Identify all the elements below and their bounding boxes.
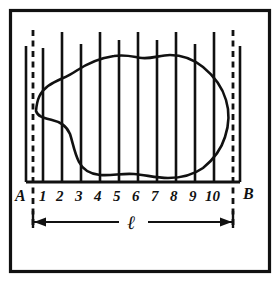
label-point-b: B (242, 185, 254, 202)
figure-labels-layer: A 1 2 3 4 5 6 7 8 9 10 B ℓ (0, 0, 279, 282)
ordinate-label-4: 4 (93, 188, 102, 204)
ordinate-label-1: 1 (39, 188, 47, 204)
ordinate-label-7: 7 (151, 188, 159, 204)
label-point-a: A (14, 187, 26, 204)
ordinate-label-5: 5 (113, 188, 121, 204)
ordinate-label-10: 10 (205, 188, 221, 204)
ordinate-label-9: 9 (189, 188, 197, 204)
figure-container: A 1 2 3 4 5 6 7 8 9 10 B ℓ (0, 0, 279, 282)
ordinate-label-2: 2 (55, 188, 64, 204)
ordinate-label-8: 8 (170, 188, 178, 204)
dimension-label-l: ℓ (127, 212, 135, 233)
ordinate-label-6: 6 (132, 188, 140, 204)
ordinate-label-3: 3 (74, 188, 83, 204)
